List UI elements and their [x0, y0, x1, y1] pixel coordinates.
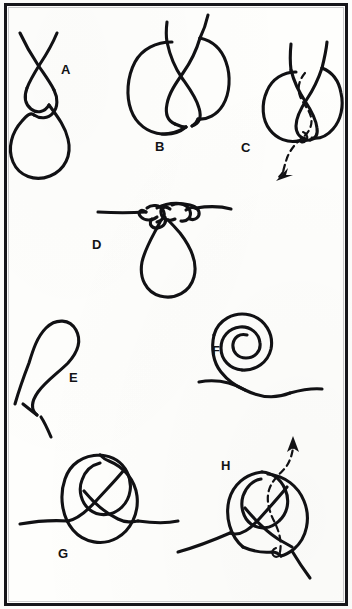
panel-label-a: A — [61, 63, 71, 76]
figure-sheet: A B C D E F G H Knot tying sequence Eigh… — [0, 0, 352, 609]
panel-h-drawing — [178, 436, 310, 578]
panel-label-g: G — [58, 547, 68, 560]
panel-a-drawing — [10, 33, 69, 178]
panel-label-f: F — [212, 344, 220, 357]
panel-label-b: B — [155, 140, 165, 153]
panel-label-c: C — [241, 141, 251, 154]
panel-g-drawing — [20, 455, 178, 542]
panel-b-drawing — [128, 15, 229, 134]
panel-d-drawing — [98, 203, 231, 297]
knot-illustrations — [0, 0, 352, 609]
panel-label-e: E — [69, 371, 78, 384]
panel-c-drawing — [263, 42, 342, 181]
panel-label-h: H — [221, 459, 231, 472]
panel-label-d: D — [92, 238, 102, 251]
